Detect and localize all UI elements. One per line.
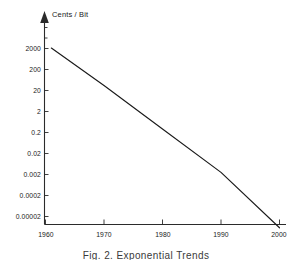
y-tick-marks (45, 28, 49, 217)
x-tick-label: 1990 (213, 231, 229, 238)
x-tick-marks (46, 220, 280, 225)
y-tick-label: 0.002 (0, 171, 41, 178)
figure-caption: Fig. 2. Exponential Trends (0, 250, 292, 260)
figure-container: Cents / Bit 2000 200 20 2 0.2 0.02 0.002… (0, 0, 292, 260)
y-tick-label: 2 (0, 108, 41, 115)
y-tick-label-group: 2000 200 20 2 0.2 0.02 0.002 0.0002 0.00… (0, 0, 41, 260)
y-tick-label: 2000 (0, 45, 41, 52)
y-tick-label: 0.02 (0, 150, 41, 157)
x-tick-label: 2000 (271, 231, 287, 238)
y-tick-label: 0.2 (0, 129, 41, 136)
y-axis-title: Cents / Bit (52, 10, 88, 19)
y-tick-label: 20 (0, 87, 41, 94)
x-tick-label: 1970 (96, 231, 112, 238)
y-tick-label: 200 (0, 66, 41, 73)
y-tick-label: 0.0002 (0, 192, 41, 199)
x-tick-label: 1960 (38, 231, 54, 238)
x-tick-label: 1980 (155, 231, 171, 238)
up-arrow-icon (40, 11, 49, 23)
y-tick-label: 0.00002 (0, 213, 41, 220)
chart-plot-area (0, 0, 292, 260)
series-line-cost-per-bit (51, 48, 279, 228)
